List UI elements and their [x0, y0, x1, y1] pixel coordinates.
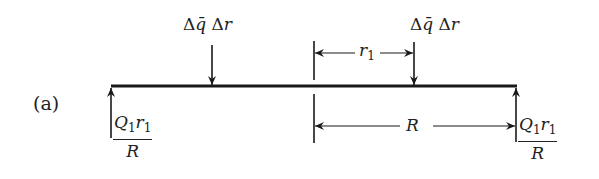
dim-R-symbol: R: [406, 115, 419, 135]
dim-R-label: R: [403, 115, 422, 135]
load-right-delta: Δ: [410, 14, 422, 34]
case-label: (a): [33, 92, 59, 114]
dim-r1-symbol: r: [359, 40, 367, 60]
reaction-left-numerator: Q1r1: [113, 112, 152, 140]
dim-r1-sub: 1: [367, 49, 375, 63]
load-left-r: r: [224, 14, 232, 34]
load-right-delta2: Δ: [439, 14, 451, 34]
beam-diagram: (a) Δq̄ Δr Δq̄ Δr r1 R Q1r1 R Q1r1 R: [0, 0, 599, 179]
load-left-label: Δq̄ Δr: [183, 14, 232, 34]
dim-r1-label: r1: [356, 40, 378, 63]
reaction-left-r-sub: 1: [144, 121, 152, 135]
reaction-left-denominator: R: [113, 140, 152, 162]
reaction-right-Q: Q: [519, 114, 533, 134]
reaction-right-fraction: Q1r1 R: [518, 114, 557, 164]
diagram-graphics: [0, 0, 599, 179]
reaction-left-Q-sub: 1: [128, 121, 136, 135]
load-right-r: r: [451, 14, 459, 34]
reaction-right-numerator: Q1r1: [518, 114, 557, 142]
load-right-label: Δq̄ Δr: [410, 14, 459, 34]
reaction-left-Q: Q: [114, 112, 128, 132]
load-left-delta2: Δ: [212, 14, 224, 34]
load-right-q: q̄: [422, 14, 433, 34]
reaction-left-r: r: [136, 112, 144, 132]
reaction-right-r-sub: 1: [549, 123, 557, 137]
reaction-right-Q-sub: 1: [533, 123, 541, 137]
reaction-right-denominator: R: [518, 142, 557, 164]
case-label-text: (a): [33, 92, 59, 114]
reaction-left-fraction: Q1r1 R: [113, 112, 152, 162]
reaction-right-r: r: [541, 114, 549, 134]
load-left-q: q̄: [195, 14, 206, 34]
load-left-delta: Δ: [183, 14, 195, 34]
